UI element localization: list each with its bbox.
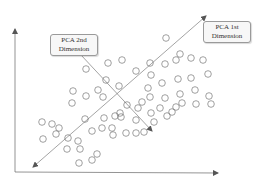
data-point [208, 101, 215, 108]
data-point [95, 87, 102, 94]
data-point [83, 66, 90, 73]
data-point [100, 94, 107, 101]
data-point [110, 132, 117, 139]
data-point [65, 135, 72, 142]
data-point [151, 119, 158, 126]
data-point [173, 57, 180, 64]
pca-1st-label-line2: Dimension [207, 32, 247, 41]
pca-1st-dimension-label: PCA 1st Dimension [203, 21, 251, 43]
data-point [39, 119, 46, 126]
data-point [123, 130, 130, 137]
data-point [193, 101, 200, 108]
data-point [188, 75, 195, 82]
data-point [101, 115, 108, 122]
data-point [109, 125, 116, 132]
data-point [177, 51, 184, 58]
data-point [77, 146, 84, 153]
data-point [148, 72, 155, 79]
pca-1st-label-line1: PCA 1st [207, 23, 247, 32]
data-point [103, 77, 110, 84]
data-point [192, 87, 199, 94]
data-point [139, 99, 146, 106]
data-point [76, 160, 83, 167]
data-point [200, 57, 207, 64]
data-point [206, 93, 213, 100]
data-point [148, 110, 155, 117]
data-point [188, 55, 195, 62]
data-point [49, 121, 56, 128]
data-point [89, 157, 96, 164]
data-point [175, 76, 182, 83]
data-point [94, 151, 101, 158]
data-point [40, 136, 47, 143]
data-point [53, 131, 60, 138]
data-point [64, 146, 71, 153]
data-point [112, 113, 119, 120]
data-point [141, 129, 148, 136]
data-point [145, 85, 152, 92]
data-point [70, 88, 77, 95]
pca-2nd-label-line2: Dimension [54, 45, 94, 54]
data-point [133, 130, 140, 137]
data-point [147, 94, 154, 101]
data-point [118, 114, 125, 121]
data-point [205, 71, 212, 78]
pca-2nd-label-line1: PCA 2nd [54, 36, 94, 45]
data-point [162, 61, 169, 68]
data-point [56, 125, 63, 132]
x-axis [15, 172, 218, 173]
data-point [116, 83, 123, 90]
data-point [159, 80, 166, 87]
data-point [117, 110, 124, 117]
data-point [177, 91, 184, 98]
pca-2nd-dimension-line [81, 55, 152, 131]
data-point [83, 93, 90, 100]
data-point [162, 95, 169, 102]
data-point [105, 60, 112, 67]
data-point [135, 105, 142, 112]
data-point [89, 128, 96, 135]
data-point [157, 105, 164, 112]
data-point [69, 100, 76, 107]
pca-2nd-dimension-label: PCA 2nd Dimension [50, 34, 98, 56]
data-point [119, 57, 126, 64]
data-point [124, 102, 131, 109]
data-point [133, 117, 140, 124]
data-point [99, 125, 106, 132]
data-point [163, 35, 170, 42]
data-point [75, 138, 82, 145]
data-point [133, 68, 140, 75]
data-point [169, 109, 176, 116]
data-point [179, 100, 186, 107]
